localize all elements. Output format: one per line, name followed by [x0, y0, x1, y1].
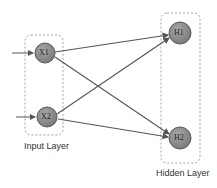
input-layer-label: Input Layer [24, 141, 69, 151]
node-h1-label: H1 [174, 28, 184, 37]
node-x2-label: X2 [41, 112, 51, 121]
network-diagram [0, 0, 217, 188]
edge-x1-h2 [55, 57, 169, 134]
edge-x1-h1 [55, 35, 168, 52]
hidden-layer-label: Hidden Layer [156, 168, 210, 178]
node-h2-label: H2 [174, 133, 184, 142]
node-x1-label: X1 [39, 48, 49, 57]
